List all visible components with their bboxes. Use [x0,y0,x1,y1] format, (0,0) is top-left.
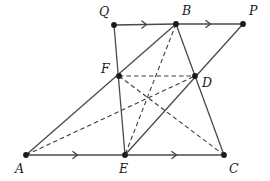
vertex-label-Q: Q [99,4,109,19]
segment-B-E [125,24,176,155]
vertex-labels-group: A B C D E F P Q [14,3,258,176]
vertex-dot-D [192,73,198,79]
vertex-dot-E [122,152,128,158]
vertex-dot-C [221,152,227,158]
vertex-label-D: D [201,75,212,90]
tick-arrows-group [73,20,211,159]
dashed-segments-group [26,24,224,155]
vertex-dot-P [240,21,246,27]
vertex-label-C: C [229,161,239,176]
segment-A-B [26,24,176,155]
vertex-dot-F [116,73,122,79]
vertex-label-B: B [181,3,191,18]
vertex-label-E: E [118,161,128,176]
vertex-label-A: A [14,161,24,176]
segment-E-P [125,24,243,155]
vertex-dot-Q [111,22,117,28]
vertex-dots-group [23,21,246,158]
geometry-figure: A B C D E F P Q [0,0,270,181]
vertex-dot-A [23,152,29,158]
geometry-canvas: A B C D E F P Q [0,0,270,181]
segment-A-D [26,76,195,155]
segment-Q-E [114,25,125,155]
vertex-dot-B [173,21,179,27]
vertex-label-P: P [248,3,258,18]
vertex-label-F: F [100,61,111,76]
